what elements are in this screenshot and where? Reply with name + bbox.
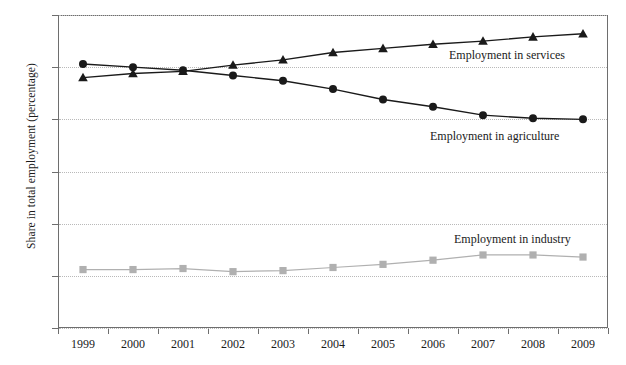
series-label-agriculture: Employment in agriculture [430, 129, 559, 144]
gridline-45 [59, 15, 607, 16]
gridline-20 [59, 276, 607, 277]
gridline-15 [59, 328, 607, 329]
series-label-industry: Employment in industry [454, 232, 571, 247]
gridline-40 [59, 67, 607, 68]
x-tick-label-2009: 2009 [553, 337, 613, 352]
y-axis-title: Share in total employment (percentage) [25, 21, 37, 291]
gridline-35 [59, 119, 607, 120]
series-label-services: Employment in services [449, 48, 565, 63]
gridline-25 [59, 224, 607, 225]
gridline-30 [59, 172, 607, 173]
employment-share-line-chart: Share in total employment (percentage) 1… [0, 0, 626, 365]
x-tick-mark-11 [608, 328, 609, 334]
